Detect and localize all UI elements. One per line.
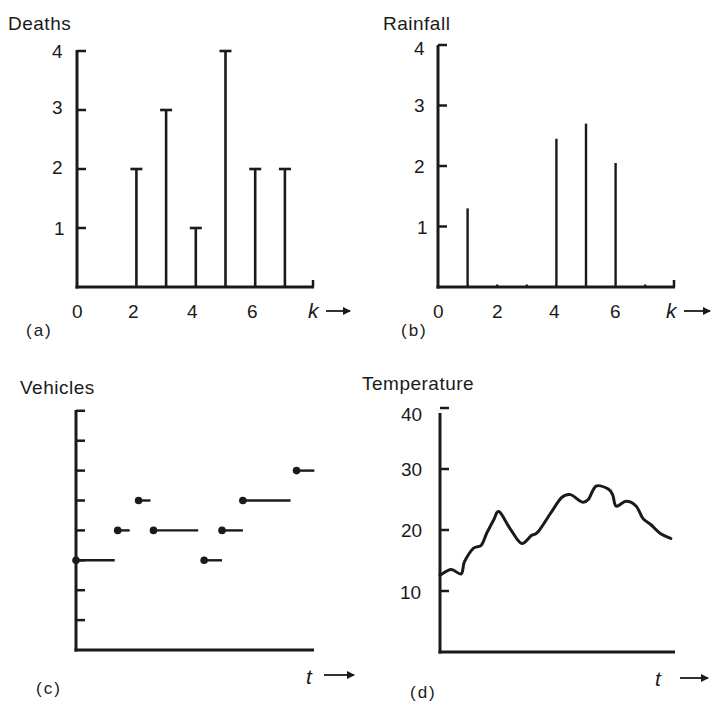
- panel-c-x-variable: t: [306, 665, 313, 688]
- panel-d-axes: [439, 408, 676, 654]
- y-tick-label: 4: [414, 38, 425, 59]
- y-tick-label: 4: [52, 41, 63, 62]
- panel-a-deaths: Deaths 1 2 3 4 0 2 4 6 k (a): [8, 13, 351, 340]
- panel-a-title: Deaths: [8, 13, 71, 34]
- x-tick-label: 0: [72, 301, 83, 322]
- arrow-right-icon: [684, 307, 711, 315]
- panel-b-x-tick-labels: 0 2 4 6: [433, 301, 621, 322]
- step-start-dot: [72, 557, 80, 565]
- step-segment: [218, 527, 243, 535]
- panel-b-title: Rainfall: [383, 13, 450, 34]
- step-start-dot: [293, 467, 301, 475]
- x-tick-label: 2: [492, 301, 503, 322]
- arrow-right-icon: [326, 307, 351, 315]
- panel-a-stems: [130, 51, 291, 287]
- panel-b-y-tick-labels: 1 2 3 4: [414, 38, 428, 238]
- panel-c-step-series: [72, 467, 314, 564]
- step-start-dot: [150, 527, 158, 535]
- step-start-dot: [218, 527, 226, 535]
- step-segment: [239, 497, 290, 505]
- panel-d-title: Temperature: [362, 373, 474, 394]
- panel-c-vehicles: Vehicles t (c): [20, 377, 355, 698]
- panel-b-x-variable: k: [666, 299, 678, 322]
- y-tick-label: 3: [52, 97, 63, 118]
- panel-a-y-tick-labels: 1 2 3 4: [52, 41, 65, 239]
- x-tick-label: 2: [128, 301, 139, 322]
- x-tick-label: 6: [610, 301, 621, 322]
- arrow-right-icon: [680, 674, 709, 682]
- y-tick-label: 40: [401, 404, 422, 425]
- y-tick-label: 20: [401, 520, 422, 541]
- arrow-right-icon: [324, 671, 355, 679]
- panel-d-y-tick-labels: 10 20 30 40: [400, 404, 422, 603]
- step-start-dot: [135, 497, 143, 505]
- panel-d-label: (d): [410, 683, 437, 702]
- panel-b-label: (b): [401, 321, 428, 340]
- figure-canvas: Deaths 1 2 3 4 0 2 4 6 k (a) Rainfall 1 …: [0, 0, 724, 727]
- step-segment: [72, 557, 115, 565]
- panel-d-temperature: Temperature 10 20 30 40 t (d): [362, 373, 709, 702]
- x-tick-label: 0: [433, 301, 444, 322]
- baseline-speck: [644, 284, 646, 286]
- x-tick-label: 4: [549, 301, 560, 322]
- y-tick-label: 3: [414, 95, 425, 116]
- step-start-dot: [200, 557, 208, 565]
- baseline-speck: [526, 284, 528, 286]
- temperature-line: [440, 486, 671, 575]
- y-tick-label: 30: [401, 459, 422, 480]
- step-segment: [200, 557, 222, 565]
- step-segment: [150, 527, 199, 535]
- panel-b-stems: [468, 124, 616, 287]
- y-tick-label: 2: [414, 156, 425, 177]
- step-segment: [135, 497, 151, 505]
- panel-a-label: (a): [26, 321, 53, 340]
- step-start-dot: [239, 497, 247, 505]
- panel-d-temperature-curve: [440, 486, 671, 575]
- step-start-dot: [114, 527, 122, 535]
- baseline-speck: [496, 284, 498, 286]
- y-tick-label: 2: [52, 157, 63, 178]
- panel-a-x-variable: k: [308, 299, 320, 322]
- panel-c-title: Vehicles: [20, 377, 95, 398]
- panel-c-label: (c): [36, 679, 62, 698]
- panel-b-rainfall: Rainfall 1 2 3 4 0 2 4 6 k (b): [383, 13, 711, 340]
- x-tick-label: 4: [187, 301, 198, 322]
- step-segment: [293, 467, 315, 475]
- x-tick-label: 6: [247, 301, 258, 322]
- y-tick-label: 10: [400, 582, 421, 603]
- y-tick-label: 1: [54, 218, 65, 239]
- panel-a-x-tick-labels: 0 2 4 6: [72, 301, 258, 322]
- step-segment: [114, 527, 130, 535]
- panel-d-x-variable: t: [655, 667, 662, 690]
- y-tick-label: 1: [417, 217, 428, 238]
